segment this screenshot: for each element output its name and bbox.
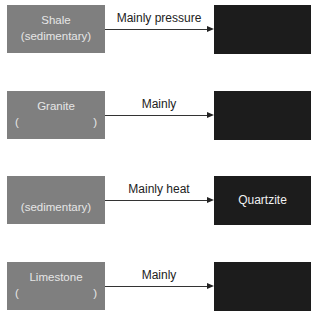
source-rock-name: Granite	[7, 99, 105, 114]
arrow-head-icon	[207, 26, 214, 32]
process-label: Mainly pressure	[105, 11, 213, 25]
diagram-row-limestone: Limestone ( ) Mainly	[0, 262, 317, 311]
arrow-head-icon	[207, 112, 214, 118]
source-rock-name: Limestone	[7, 270, 105, 285]
arrow-line	[105, 115, 208, 116]
source-rock-box: Granite ( )	[7, 91, 105, 139]
arrow-head-icon	[207, 283, 214, 289]
diagram-row-shale: Shale (sedimentary) Mainly pressure	[0, 5, 317, 54]
arrow-line	[105, 286, 208, 287]
process-label: Mainly	[105, 97, 213, 111]
metamorphic-rock-box	[214, 91, 311, 140]
source-rock-type: (sedimentary)	[7, 200, 105, 215]
arrow-line	[105, 29, 208, 30]
source-rock-box: (sedimentary)	[7, 176, 105, 224]
blank-open-paren: (	[15, 115, 19, 130]
source-rock-box: Limestone ( )	[7, 262, 105, 310]
arrow-head-icon	[207, 197, 214, 203]
metamorphic-rock-name: Quartzite	[238, 193, 287, 207]
metamorphic-rock-box	[214, 262, 311, 311]
source-rock-name: Shale	[7, 13, 105, 28]
diagram-row-granite: Granite ( ) Mainly	[0, 91, 317, 140]
diagram-row-quartzite: (sedimentary) Mainly heat Quartzite	[0, 176, 317, 225]
blank-close-paren: )	[93, 286, 97, 301]
metamorphic-rock-box	[214, 5, 311, 54]
process-label: Mainly	[105, 268, 213, 282]
blank-close-paren: )	[93, 115, 97, 130]
source-rock-box: Shale (sedimentary)	[7, 5, 105, 53]
process-label: Mainly heat	[105, 182, 213, 196]
metamorphic-rock-box: Quartzite	[214, 176, 311, 225]
source-rock-type: (sedimentary)	[7, 29, 105, 44]
blank-open-paren: (	[15, 286, 19, 301]
arrow-line	[105, 200, 208, 201]
